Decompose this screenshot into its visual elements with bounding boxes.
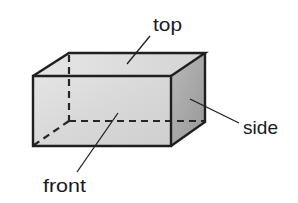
top-label: top xyxy=(153,14,182,35)
side-label: side xyxy=(243,117,278,138)
rectangular-prism-diagram: top side front xyxy=(0,0,298,203)
front-label: front xyxy=(43,175,87,196)
